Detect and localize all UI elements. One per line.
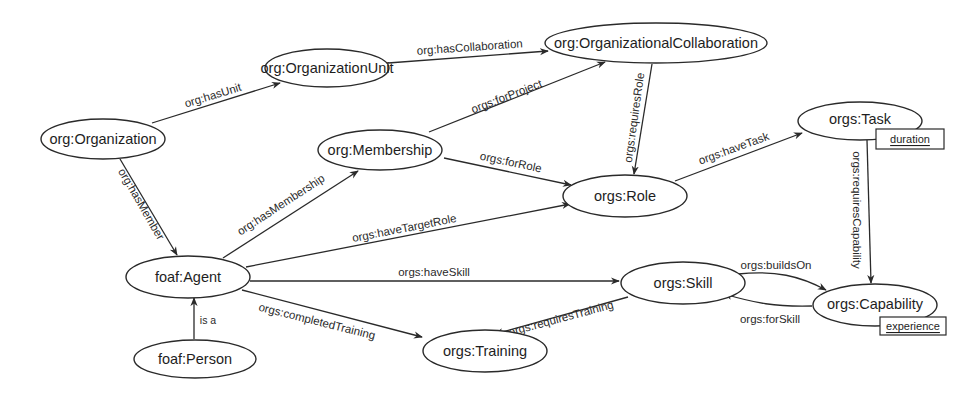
edge-label-have-target-role: orgs:haveTargetRole (351, 212, 457, 244)
edge-label-have-skill: orgs:haveSkill (398, 266, 470, 278)
edge-label-has-membership: org:hasMembership (235, 172, 327, 237)
node-label-agent: foaf:Agent (155, 269, 221, 285)
edge-has-membership: org:hasMembership (223, 171, 358, 258)
node-membership[interactable]: org:Membership (318, 130, 442, 170)
edge-have-task: orgs:haveTask (675, 130, 802, 181)
node-label-capability: orgs:Capability (827, 296, 924, 312)
edge-is-a: is a (194, 298, 216, 339)
node-organization[interactable]: org:Organization (41, 119, 165, 159)
edge-label-for-skill: orgs:forSkill (740, 313, 800, 325)
edge-for-role: orgs:forRole (444, 150, 571, 185)
node-person[interactable]: foaf:Person (134, 340, 256, 378)
edge-requires-capability: orgs:requiresCapability (851, 140, 871, 283)
node-label-task: orgs:Task (829, 111, 892, 127)
edge-label-for-role: orgs:forRole (479, 150, 543, 175)
node-label-role: orgs:Role (594, 188, 656, 204)
edge-has-unit: org:hasUnit (152, 81, 280, 123)
node-label-organization: org:Organization (49, 131, 156, 147)
edge-label-for-project: orgs:forProject (470, 77, 545, 115)
edge-has-collaboration: org:hasCollaboration (388, 37, 548, 63)
node-organization-unit[interactable]: org:OrganizationUnit (261, 49, 394, 87)
edge-label-have-task: orgs:haveTask (697, 130, 771, 167)
attribute-label-duration: duration (890, 133, 930, 145)
node-agent[interactable]: foaf:Agent (126, 256, 250, 298)
node-skill[interactable]: orgs:Skill (621, 262, 745, 304)
edge-label-requires-training: orgs:requiresTraining (507, 298, 615, 338)
node-label-skill: orgs:Skill (654, 275, 713, 291)
edge-requires-role: orgs:requiresRole (622, 64, 652, 174)
edge-have-target-role: orgs:haveTargetRole (246, 204, 570, 267)
node-role[interactable]: orgs:Role (563, 175, 687, 217)
edge-builds-on: orgs:buildsOn (738, 259, 826, 290)
node-organizational-collaboration[interactable]: org:OrganizationalCollaboration (545, 23, 767, 63)
attribute-label-experience: experience (886, 320, 940, 332)
edge-label-has-unit: org:hasUnit (183, 81, 244, 110)
node-task[interactable]: orgs:Task duration (798, 102, 944, 149)
ontology-diagram: org:hasUnit org:hasCollaboration orgs:fo… (0, 0, 980, 397)
node-label-person: foaf:Person (158, 351, 232, 367)
node-label-training: orgs:Training (443, 343, 527, 359)
edge-label-has-member: org:hasMember (116, 166, 167, 242)
edge-label-builds-on: orgs:buildsOn (741, 259, 812, 271)
edge-completed-training: orgs:completedTraining (242, 290, 422, 341)
node-label-organization-unit: org:OrganizationUnit (261, 60, 394, 76)
edge-have-skill: orgs:haveSkill (250, 266, 619, 281)
edge-has-member: org:hasMember (116, 159, 177, 255)
edge-for-skill: orgs:forSkill (724, 294, 812, 325)
node-label-membership: org:Membership (328, 142, 433, 158)
node-training[interactable]: orgs:Training (423, 330, 547, 372)
node-label-organizational-collaboration: org:OrganizationalCollaboration (554, 35, 758, 51)
edge-label-requires-capability: orgs:requiresCapability (851, 151, 863, 269)
edge-requires-training: orgs:requiresTraining (495, 297, 628, 338)
node-capability[interactable]: orgs:Capability experience (813, 284, 946, 335)
edge-for-project: orgs:forProject (429, 62, 605, 132)
edge-label-is-a: is a (200, 314, 217, 326)
